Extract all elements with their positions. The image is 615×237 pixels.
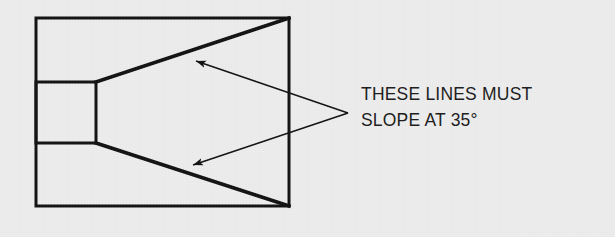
annotation-line-2: SLOPE AT 35° xyxy=(361,112,478,130)
annotation-angle-text: SLOPE AT 35 xyxy=(361,110,471,130)
inner-throat-rectangle xyxy=(36,82,96,143)
lower-leader-line xyxy=(193,113,348,165)
degree-symbol: ° xyxy=(471,110,478,130)
lower-taper-line xyxy=(96,143,289,206)
upper-taper-line xyxy=(96,18,289,82)
outer-rectangle xyxy=(36,18,289,206)
annotation-line-1: THESE LINES MUST xyxy=(361,86,532,104)
technical-drawing-canvas xyxy=(0,0,615,237)
upper-leader-line xyxy=(196,61,348,113)
diagram-screenshot: THESE LINES MUST SLOPE AT 35° xyxy=(0,0,615,237)
